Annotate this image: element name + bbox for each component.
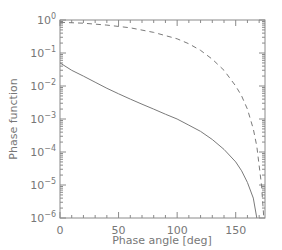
y-tick-label: 10−3 [30, 111, 56, 126]
x-tick-label: 0 [57, 224, 64, 237]
y-tick-label: 10−4 [30, 144, 56, 159]
series-solid [60, 63, 257, 218]
x-axis-label: Phase angle [deg] [112, 234, 212, 247]
plot-border [60, 20, 265, 218]
y-axis-label: Phase function [7, 78, 20, 159]
plot-frame [60, 20, 265, 218]
y-tick-label: 10−6 [30, 210, 56, 225]
series-dashed [60, 22, 264, 218]
y-tick-label: 10−2 [30, 78, 56, 93]
phase-function-chart: 05010015010010−110−210−310−410−510−6 Pha… [0, 0, 282, 250]
data-series [60, 22, 264, 218]
axis-ticks [60, 20, 265, 218]
y-tick-label: 10−5 [30, 177, 56, 192]
y-tick-label: 100 [37, 12, 56, 27]
y-tick-label: 10−1 [30, 45, 56, 60]
x-tick-label: 150 [225, 224, 246, 237]
